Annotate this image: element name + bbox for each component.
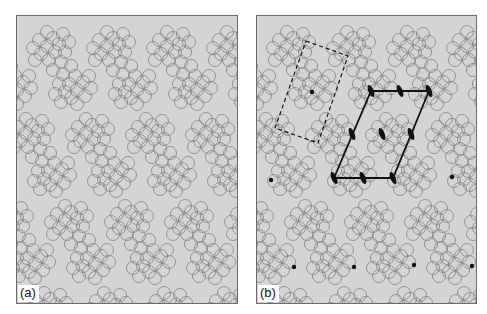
- panel-a: (a): [16, 15, 238, 304]
- pattern-b: [257, 16, 476, 303]
- pattern-a: [17, 16, 237, 303]
- panel-label-a: (a): [18, 285, 39, 302]
- panel-label-b: (b): [258, 285, 279, 302]
- panel-b: (b): [256, 15, 477, 304]
